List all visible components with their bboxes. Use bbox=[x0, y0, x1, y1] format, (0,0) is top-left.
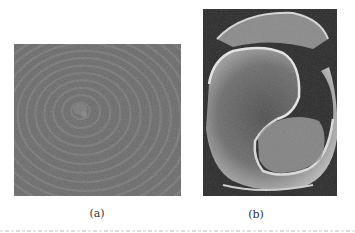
panel-b-caption: (b) bbox=[236, 208, 276, 221]
micrograph-panel-a bbox=[14, 44, 181, 196]
micrograph-panel-b bbox=[203, 9, 337, 196]
cropped-text-line bbox=[0, 228, 355, 233]
panel-a-caption: (a) bbox=[77, 207, 117, 220]
